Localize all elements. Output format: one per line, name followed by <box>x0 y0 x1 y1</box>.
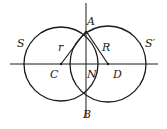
label-s-prime: S′ <box>145 37 156 50</box>
label-b: B <box>82 108 91 121</box>
label-d: D <box>112 68 122 81</box>
point-d <box>107 63 109 65</box>
label-n: N <box>86 68 97 81</box>
point-c <box>60 63 62 65</box>
label-c: C <box>50 68 59 81</box>
label-r: r <box>58 41 64 54</box>
label-a: A <box>86 15 95 28</box>
label-R: R <box>101 41 110 54</box>
two-circles-diagram: S S′ A B C D N r R <box>0 0 167 129</box>
radius-r <box>61 31 86 64</box>
label-s: S <box>17 37 25 50</box>
